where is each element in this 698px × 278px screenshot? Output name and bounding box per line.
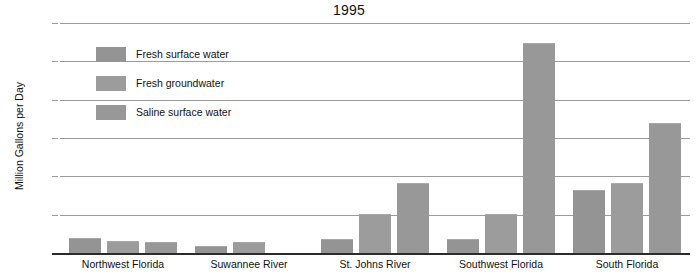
bar	[649, 123, 681, 253]
y-tick-mark	[52, 138, 58, 139]
legend-swatch-icon	[96, 47, 126, 62]
gridline	[60, 176, 690, 177]
x-category-label: Southwest Florida	[459, 258, 543, 270]
legend-item: Saline surface water	[96, 102, 231, 122]
bar	[447, 239, 479, 253]
bar	[107, 241, 139, 254]
legend-item: Fresh surface water	[96, 44, 231, 64]
bar	[573, 190, 605, 253]
chart-legend: Fresh surface waterFresh groundwaterSali…	[96, 44, 231, 131]
bar	[359, 214, 391, 253]
bar	[485, 214, 517, 253]
x-category-label: Northwest Florida	[82, 258, 164, 270]
bar	[195, 246, 227, 253]
bar-chart: 1995 Million Gallons per Day 01,0002,000…	[0, 0, 698, 278]
legend-label: Saline surface water	[136, 106, 231, 118]
legend-label: Fresh surface water	[136, 48, 229, 60]
bar	[397, 183, 429, 253]
legend-label: Fresh groundwater	[136, 77, 224, 89]
y-tick-mark	[52, 23, 58, 24]
bar	[69, 238, 101, 253]
bar	[145, 242, 177, 253]
legend-swatch-icon	[96, 105, 126, 120]
x-category-label: St. Johns River	[339, 258, 410, 270]
bar	[611, 183, 643, 253]
bar	[233, 242, 265, 253]
bar	[321, 239, 353, 253]
chart-title: 1995	[0, 2, 698, 18]
x-axis-line	[52, 253, 690, 255]
x-category-label: South Florida	[596, 258, 658, 270]
x-category-label: Suwannee River	[210, 258, 287, 270]
legend-item: Fresh groundwater	[96, 73, 231, 93]
y-tick-mark	[52, 61, 58, 62]
y-axis-label: Million Gallons per Day	[13, 56, 25, 216]
gridline	[60, 23, 690, 24]
gridline	[60, 138, 690, 139]
legend-swatch-icon	[96, 76, 126, 91]
y-tick-mark	[52, 215, 58, 216]
bar	[523, 43, 555, 253]
y-tick-mark	[52, 176, 58, 177]
y-tick-mark	[52, 100, 58, 101]
